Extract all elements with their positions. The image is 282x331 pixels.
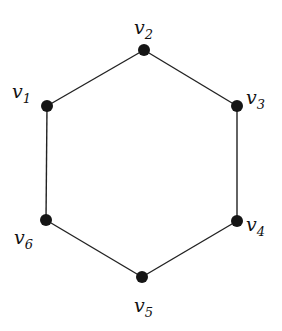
label-base: v [134,16,145,38]
edge-v5-v6 [46,220,142,277]
label-v1: v1 [12,82,31,105]
node-v3 [231,100,243,112]
label-subscript: 5 [145,305,153,320]
label-subscript: 6 [25,237,33,252]
edge-v2-v3 [144,50,237,106]
label-subscript: 1 [23,91,31,106]
label-base: v [246,213,257,235]
label-v5: v5 [134,296,153,319]
label-base: v [246,86,257,108]
label-base: v [134,294,145,316]
node-v6 [40,214,52,226]
graph-diagram: v1v2v3v4v5v6 [0,0,282,331]
label-v4: v4 [246,215,265,238]
label-subscript: 3 [257,97,265,112]
edge-v1-v2 [47,50,144,106]
label-subscript: 4 [257,224,265,239]
label-v6: v6 [14,228,33,251]
label-base: v [12,80,23,102]
node-v4 [231,215,243,227]
edge-v6-v1 [46,106,47,220]
edge-v4-v5 [142,221,237,277]
node-v1 [41,100,53,112]
label-base: v [14,226,25,248]
label-subscript: 2 [145,27,153,42]
node-v2 [138,44,150,56]
node-v5 [136,271,148,283]
label-v2: v2 [134,18,153,41]
graph-svg [0,0,282,331]
label-v3: v3 [246,88,265,111]
